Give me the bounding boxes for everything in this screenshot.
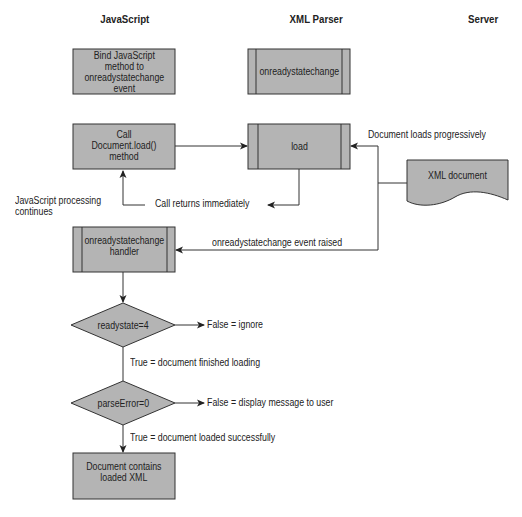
call-load-label: Call Document.load() method — [73, 124, 175, 166]
doc-loads-label: Document loads progressively — [368, 129, 486, 140]
decision-readystate-label: readystate=4 — [78, 318, 168, 332]
call-returns-label: Call returns immediately — [155, 198, 249, 209]
column-header-xml-parser: XML Parser — [290, 13, 343, 25]
bind-method-label: Bind JavaScript method to onreadystatech… — [73, 49, 175, 94]
xml-document-label: XML document — [407, 160, 508, 190]
result-label: Document contains loaded XML — [73, 453, 175, 491]
decision-parseerror-label: parseError=0 — [78, 396, 168, 410]
column-header-server: Server — [468, 13, 498, 25]
column-header-javascript: JavaScript — [100, 13, 149, 25]
handler-label: onreadystatechange handler — [82, 227, 167, 265]
parseerror-true-label: True = document loaded successfully — [130, 432, 275, 443]
readystate-false-label: False = ignore — [207, 319, 263, 330]
xml-onreadystatechange-label: onreadystatechange — [256, 49, 342, 94]
js-continues-label: JavaScript processing continues — [15, 195, 101, 217]
arrow-js-continues — [123, 171, 145, 205]
parseerror-false-label: False = display message to user — [207, 397, 333, 408]
arrow-doc-loads — [351, 146, 378, 183]
readystate-true-label: True = document finished loading — [130, 357, 260, 368]
load-label: load — [258, 124, 341, 169]
arrow-load-return — [268, 169, 299, 205]
event-raised-label: onreadystatechange event raised — [212, 237, 342, 248]
